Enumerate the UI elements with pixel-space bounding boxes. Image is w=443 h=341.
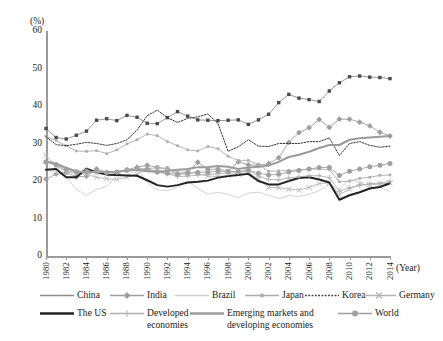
legend-label: The US: [74, 307, 107, 319]
legend-item-world[interactable]: World: [338, 307, 399, 319]
legend-label: Developed economies: [144, 307, 189, 330]
legend-swatch-icon: [175, 290, 209, 301]
x-axis-caption: (Year): [396, 263, 420, 273]
x-tick-mark-2006: [309, 257, 310, 260]
x-tick-mark-1980: [46, 257, 47, 260]
legend-swatch-icon: [338, 308, 372, 319]
x-tick-label-1980: 1980: [42, 262, 50, 280]
x-tick-label-1992: 1992: [163, 262, 171, 280]
x-tick-label-2002: 2002: [264, 262, 272, 280]
investment-ratio-line-chart: (%) 6050403020100 1980198219841986198819…: [0, 0, 443, 341]
x-tick-mark-2000: [248, 257, 249, 260]
legend-item-germany[interactable]: Germany: [362, 289, 435, 301]
x-tick-mark-1994: [188, 257, 189, 260]
legend-item-korea[interactable]: Korea: [305, 289, 365, 301]
x-tick-label-2006: 2006: [305, 262, 313, 280]
legend-item-china[interactable]: China: [40, 289, 100, 301]
x-tick-mark-1982: [66, 257, 67, 260]
legend-label: World: [372, 307, 399, 319]
x-tick-label-1984: 1984: [82, 262, 90, 280]
x-tick-mark-2014: [390, 257, 391, 260]
legend-item-the-us[interactable]: The US: [40, 307, 107, 319]
legend-swatch-icon: [40, 290, 74, 301]
legend-label: Emerging markets and developing economie…: [224, 307, 314, 330]
x-tick-label-2004: 2004: [284, 262, 292, 280]
legend-item-developed-economies[interactable]: Developed economies: [110, 307, 189, 330]
legend-swatch-icon: [362, 290, 396, 301]
x-tick-label-2012: 2012: [365, 262, 373, 280]
legend-label: India: [144, 289, 167, 301]
legend-swatch-icon: [110, 308, 144, 319]
legend-row-secondary: The USDeveloped economiesEmerging market…: [0, 307, 443, 339]
legend-item-japan[interactable]: Japan: [245, 289, 304, 301]
x-tick-mark-1986: [107, 257, 108, 260]
legend-label: China: [74, 289, 100, 301]
x-tick-mark-2004: [289, 257, 290, 260]
legend-swatch-icon: [305, 290, 339, 301]
x-tick-mark-1984: [86, 257, 87, 260]
x-tick-label-1998: 1998: [224, 262, 232, 280]
x-tick-mark-1996: [208, 257, 209, 260]
legend-swatch-icon: [190, 308, 224, 319]
x-tick-label-1982: 1982: [62, 262, 70, 280]
x-tick-label-2000: 2000: [244, 262, 252, 280]
x-tick-mark-2008: [329, 257, 330, 260]
x-tick-mark-1990: [147, 257, 148, 260]
legend-swatch-icon: [245, 290, 279, 301]
x-tick-label-1988: 1988: [122, 262, 130, 280]
x-tick-mark-1992: [167, 257, 168, 260]
legend-label: Japan: [279, 289, 304, 301]
x-tick-label-1994: 1994: [183, 262, 191, 280]
x-tick-mark-1998: [228, 257, 229, 260]
x-tick-mark-2012: [370, 257, 371, 260]
x-tick-label-2010: 2010: [345, 262, 353, 280]
x-tick-label-2014: 2014: [386, 262, 394, 280]
x-tick-label-1990: 1990: [143, 262, 151, 280]
legend-swatch-icon: [110, 290, 144, 301]
chart-legend: ChinaIndiaBrazilJapanKoreaGermany The US…: [0, 289, 443, 341]
legend-label: Germany: [396, 289, 435, 301]
legend-label: Brazil: [209, 289, 235, 301]
legend-swatch-icon: [40, 308, 74, 319]
legend-row-primary: ChinaIndiaBrazilJapanKoreaGermany: [0, 289, 443, 305]
x-tick-mark-1988: [127, 257, 128, 260]
x-tick-label-1996: 1996: [203, 262, 211, 280]
x-tick-label-1986: 1986: [102, 262, 110, 280]
legend-item-brazil[interactable]: Brazil: [175, 289, 235, 301]
x-tick-label-2008: 2008: [325, 262, 333, 280]
legend-item-emerging-markets-and-developing-economies[interactable]: Emerging markets and developing economie…: [190, 307, 314, 330]
legend-item-india[interactable]: India: [110, 289, 167, 301]
x-tick-mark-2002: [269, 257, 270, 260]
x-tick-mark-2010: [350, 257, 351, 260]
